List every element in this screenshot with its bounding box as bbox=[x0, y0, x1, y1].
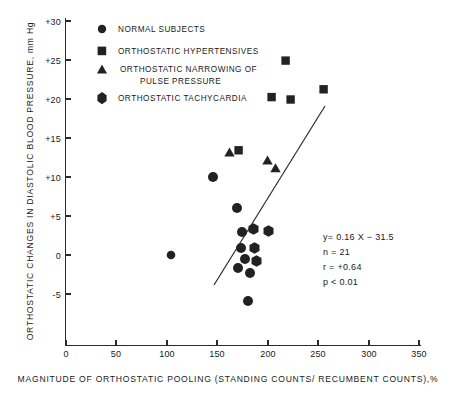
legend-label-tachycardia: ORTHOSTATIC TACHYCARDIA bbox=[118, 94, 247, 103]
x-axis-title: MAGNITUDE OF ORTHOSTATIC POOLING (STANDI… bbox=[18, 374, 439, 384]
x-tick-label: 200 bbox=[260, 349, 276, 359]
data-point-square bbox=[286, 95, 294, 103]
data-point-square bbox=[319, 85, 327, 93]
y-axis-ticks bbox=[66, 21, 72, 294]
data-point-triangle bbox=[262, 156, 272, 165]
y-axis-title: ORTHOSTATIC CHANGES IN DIASTOLIC BLOOD P… bbox=[25, 22, 35, 341]
legend-label-narrowing-line2: PULSE PRESSURE bbox=[140, 77, 221, 86]
legend-marker-triangle-icon bbox=[97, 64, 107, 73]
data-point-circle bbox=[243, 296, 253, 306]
y-tick-label: -5 bbox=[53, 290, 61, 300]
legend-label-hypertensives: ORTHOSTATIC HYPERTENSIVES bbox=[118, 47, 259, 56]
data-point-square bbox=[281, 56, 289, 64]
correlation-text: r = +0.64 bbox=[323, 262, 362, 272]
x-tick-label: 150 bbox=[209, 349, 225, 359]
data-point-hexagon bbox=[264, 225, 274, 237]
data-point-circle bbox=[240, 254, 250, 264]
data-point-triangle bbox=[270, 163, 280, 172]
x-tick-label: 350 bbox=[411, 349, 427, 359]
legend-marker-square-icon bbox=[98, 47, 107, 56]
y-axis-tick-labels: +30 +25 +20 +15 +10 +5 0 -5 bbox=[45, 17, 61, 300]
x-axis-ticks bbox=[66, 340, 419, 346]
y-tick-label: +30 bbox=[45, 17, 61, 27]
data-point-circle bbox=[167, 251, 176, 260]
series-normal-subjects bbox=[167, 172, 255, 306]
data-point-circle bbox=[232, 203, 242, 213]
legend-label-narrowing-line1: ORTHOSTATIC NARROWING OF bbox=[120, 65, 257, 74]
sample-size-text: n = 21 bbox=[323, 247, 350, 257]
data-point-circle bbox=[236, 243, 246, 253]
y-tick-label: +25 bbox=[45, 56, 61, 66]
data-point-triangle bbox=[224, 148, 234, 157]
legend-marker-hexagon-icon bbox=[97, 92, 106, 104]
legend-marker-circle-icon bbox=[98, 25, 106, 33]
data-point-circle bbox=[237, 227, 247, 237]
p-value-text: p < 0.01 bbox=[323, 277, 358, 287]
scatter-plot-figure: +30 +25 +20 +15 +10 +5 0 -5 0 50 100 150 bbox=[0, 0, 449, 397]
x-tick-label: 100 bbox=[159, 349, 175, 359]
x-tick-label: 300 bbox=[361, 349, 377, 359]
x-axis-tick-labels: 0 50 100 150 200 250 300 350 bbox=[63, 349, 426, 359]
data-point-hexagon bbox=[250, 242, 260, 254]
x-tick-label: 50 bbox=[111, 349, 121, 359]
regression-equation-text: y= 0.16 X − 31.5 bbox=[323, 232, 394, 242]
data-point-hexagon bbox=[252, 255, 262, 267]
y-tick-label: +10 bbox=[45, 173, 61, 183]
regression-line bbox=[214, 106, 325, 285]
y-tick-label: 0 bbox=[56, 251, 61, 261]
legend-label-normal-subjects: NORMAL SUBJECTS bbox=[118, 25, 205, 34]
x-tick-label: 0 bbox=[63, 349, 68, 359]
data-point-circle bbox=[245, 268, 255, 278]
data-point-circle bbox=[233, 263, 243, 273]
x-tick-label: 250 bbox=[310, 349, 326, 359]
data-point-circle bbox=[208, 172, 218, 182]
data-point-square bbox=[234, 146, 242, 154]
y-tick-label: +20 bbox=[45, 95, 61, 105]
data-point-hexagon bbox=[249, 223, 259, 235]
series-orthostatic-tachycardia bbox=[249, 223, 274, 267]
legend: NORMAL SUBJECTS ORTHOSTATIC HYPERTENSIVE… bbox=[97, 25, 259, 105]
y-tick-label: +5 bbox=[50, 212, 61, 222]
statistics-annotation: y= 0.16 X − 31.5 n = 21 r = +0.64 p < 0.… bbox=[323, 232, 394, 287]
plot-canvas: +30 +25 +20 +15 +10 +5 0 -5 0 50 100 150 bbox=[0, 0, 449, 397]
y-tick-label: +15 bbox=[45, 134, 61, 144]
series-orthostatic-narrowing-pulse-pressure bbox=[224, 148, 280, 173]
data-point-square bbox=[267, 93, 275, 101]
